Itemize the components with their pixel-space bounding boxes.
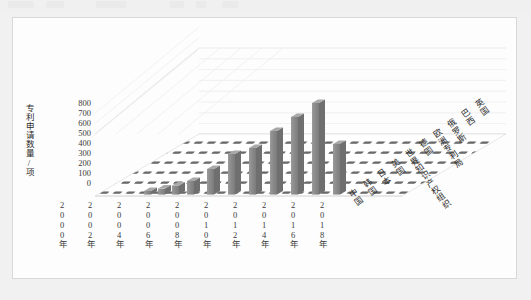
bar-2014 [228,150,241,194]
bar-2018 [312,99,325,194]
x-tick-2012: 2012年 [230,200,239,249]
y-tick-800: 800 [47,99,91,108]
bar-2019 [333,140,346,194]
x-tick-2016: 2016年 [288,200,297,249]
bar-2017 [291,113,304,194]
x-tick-2000: 2000年 [57,200,66,249]
screenshot-root: 专利申请数量/项 800 700 600 500 400 300 200 100… [0,0,531,300]
x-tick-2006: 2006年 [143,200,152,249]
scan-artifact-strip [0,0,531,14]
figure-frame: 专利申请数量/项 800 700 600 500 400 300 200 100… [12,17,517,279]
x-tick-2018: 2018年 [317,200,326,249]
y-tick-500: 500 [47,129,91,138]
y-axis-title: 专利申请数量/项 [21,104,34,177]
bar-2012 [187,177,200,194]
x-tick-2008: 2008年 [172,200,181,249]
x-tick-2014: 2014年 [259,200,268,249]
y-tick-200: 200 [47,159,91,168]
bar-2013 [207,165,220,194]
x-tick-2004: 2004年 [114,200,123,249]
x-tick-2010: 2010年 [201,200,210,249]
x-tick-2002: 2002年 [85,200,94,249]
y-tick-600: 600 [47,119,91,128]
y-tick-0: 0 [47,179,91,188]
y-tick-700: 700 [47,109,91,118]
bar-2015 [249,144,262,194]
y-tick-100: 100 [47,169,91,178]
y-tick-400: 400 [47,139,91,148]
bar-2016 [270,127,283,194]
y-tick-300: 300 [47,149,91,158]
